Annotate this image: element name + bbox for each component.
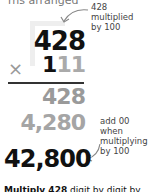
partial-product-1: 428 (42, 84, 85, 109)
multiplier-hundreds-digit: 1 (42, 52, 56, 77)
bottom-caption: Multiply 428 digit by digit by (4, 185, 141, 192)
bottom-caption-bold: Multiply 428 (4, 185, 67, 192)
multiplier: 111 (42, 52, 85, 77)
result: 42,800 (4, 145, 91, 173)
multiplier-rest: 11 (56, 52, 85, 77)
note-line: by 100 (91, 22, 152, 32)
note-multiplied-by-100: 428 multiplied by 100 (91, 2, 152, 32)
note-line: by 100 (100, 146, 152, 156)
note-line: multiplying (100, 136, 152, 146)
times-sign: × (8, 58, 23, 79)
note-line: add 00 when (100, 116, 152, 136)
bottom-caption-rest: digit by digit by (67, 185, 140, 192)
partial-product-2: 4,280 (20, 110, 85, 135)
note-add-00: add 00 when multiplying by 100 (100, 116, 152, 156)
note-line: 428 multiplied (91, 2, 152, 22)
curved-arrow-icon (60, 6, 90, 26)
